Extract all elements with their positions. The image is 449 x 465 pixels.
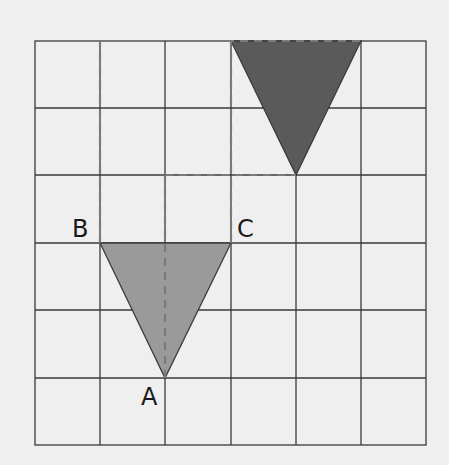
vertex-label-b: B [72,217,88,241]
grid-diagram [0,0,449,465]
vertex-label-c: C [237,217,254,241]
vertex-label-a: A [141,385,157,409]
diagram-canvas: B C A [0,0,449,465]
